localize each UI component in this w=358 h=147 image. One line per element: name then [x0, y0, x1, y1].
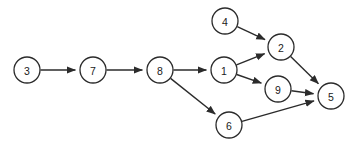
graph-node-label-7: 7 [90, 65, 96, 77]
graph-node-5[interactable]: 5 [318, 83, 344, 109]
graph-node-3[interactable]: 3 [14, 57, 40, 83]
graph-edge-6-to-5 [242, 101, 314, 122]
graph-node-label-2: 2 [278, 42, 284, 54]
graph-edge-2-to-5 [291, 56, 319, 83]
graph-node-label-3: 3 [24, 65, 30, 77]
graph-node-label-5: 5 [328, 91, 334, 103]
graph-node-9[interactable]: 9 [265, 76, 291, 102]
graph-node-4[interactable]: 4 [212, 8, 238, 34]
graph-node-label-1: 1 [221, 65, 227, 77]
graph-node-7[interactable]: 7 [80, 57, 106, 83]
graph-node-label-8: 8 [157, 65, 163, 77]
graph-edge-1-to-2 [237, 54, 265, 65]
graph-edge-8-to-6 [171, 78, 216, 114]
graph-canvas: 378142965 [0, 0, 358, 147]
graph-node-2[interactable]: 2 [268, 34, 294, 60]
graph-node-8[interactable]: 8 [147, 57, 173, 83]
graph-edge-1-to-9 [237, 74, 262, 83]
graph-node-label-9: 9 [275, 84, 281, 96]
graph-edge-4-to-2 [237, 27, 265, 40]
nodes-group: 378142965 [14, 8, 344, 138]
graph-svg: 378142965 [0, 0, 358, 147]
graph-node-label-4: 4 [222, 16, 228, 28]
graph-node-label-6: 6 [226, 120, 232, 132]
graph-edge-9-to-5 [291, 91, 313, 94]
graph-node-6[interactable]: 6 [216, 112, 242, 138]
graph-node-1[interactable]: 1 [211, 57, 237, 83]
